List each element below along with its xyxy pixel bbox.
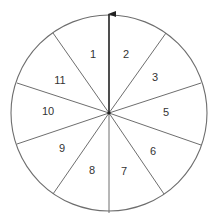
sector-label: 2 (123, 48, 129, 60)
sector-label: 9 (59, 142, 65, 154)
spinner-diagram: 123567891011 (0, 0, 214, 221)
sector-label: 10 (42, 105, 54, 117)
spoke-line (109, 83, 201, 113)
sector-labels: 123567891011 (42, 48, 169, 177)
spoke-line (109, 113, 201, 145)
spoke-line (17, 83, 109, 113)
spoke-line (17, 113, 109, 144)
sector-label: 11 (54, 74, 65, 86)
sector-label: 8 (89, 164, 95, 176)
spinner-hub (107, 111, 110, 114)
sector-label: 5 (163, 106, 169, 118)
sector-label: 1 (90, 48, 96, 60)
sector-label: 7 (121, 165, 127, 177)
sector-label: 3 (152, 71, 158, 83)
sector-label: 6 (150, 145, 156, 157)
